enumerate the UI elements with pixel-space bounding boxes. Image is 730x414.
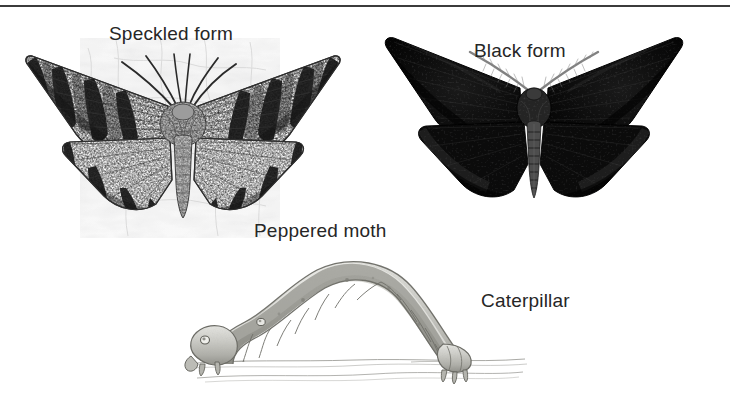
label-caterpillar: Caterpillar [481,291,570,311]
caterpillar-illustration [175,252,535,388]
speckled-form-moth-illustration [18,38,348,238]
top-rule-divider [0,5,730,7]
label-black-form: Black form [474,41,566,61]
label-peppered-moth: Peppered moth [254,221,387,241]
peppered-moth-figure: Speckled form Black form Peppered moth C… [0,0,730,414]
label-speckled-form: Speckled form [109,24,233,44]
